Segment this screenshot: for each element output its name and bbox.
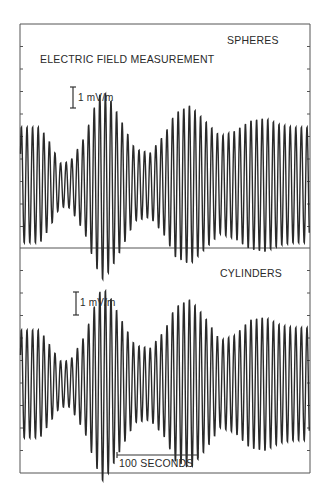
cylinders-label: CYLINDERS bbox=[220, 267, 282, 279]
scale-bar-bottom bbox=[73, 292, 79, 315]
spheres-trace bbox=[21, 94, 310, 279]
time-scale-label: 100 SECONDS bbox=[119, 457, 194, 469]
bottom-amplitude-scale-label: 1 mV/m bbox=[80, 297, 116, 308]
cylinders-trace bbox=[21, 291, 310, 480]
scale-bar-top bbox=[70, 87, 76, 108]
top-amplitude-scale-label: 1 mV/m bbox=[78, 92, 114, 103]
chart-title: ELECTRIC FIELD MEASUREMENT bbox=[40, 53, 214, 65]
spheres-label: SPHERES bbox=[227, 34, 279, 46]
figure bbox=[0, 0, 326, 491]
